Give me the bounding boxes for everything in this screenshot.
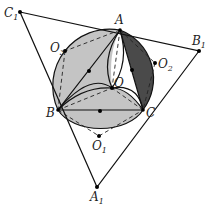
point-a1 bbox=[95, 185, 99, 189]
point-c bbox=[141, 108, 145, 112]
label-c: C bbox=[146, 106, 155, 120]
point-o2 bbox=[153, 61, 157, 65]
point-a bbox=[118, 28, 122, 32]
point-o1 bbox=[97, 134, 101, 138]
midpoint-bc bbox=[98, 109, 102, 113]
label-o1: O1 bbox=[92, 139, 107, 155]
point-b bbox=[56, 108, 60, 112]
label-b1: B1 bbox=[191, 34, 206, 50]
label-a: A bbox=[114, 13, 124, 27]
label-c1: C1 bbox=[4, 6, 18, 22]
label-a1: A1 bbox=[89, 190, 104, 206]
point-c1 bbox=[18, 10, 22, 14]
label-o3: O3 bbox=[50, 41, 65, 57]
label-b: B bbox=[45, 106, 55, 120]
label-o: O bbox=[114, 76, 124, 90]
geometry-diagram: C1 A B1 O3 O2 O B C O1 A1 bbox=[0, 0, 208, 222]
midpoint-ab bbox=[87, 69, 91, 73]
midpoint-ac bbox=[130, 68, 134, 72]
label-o2: O2 bbox=[158, 57, 173, 73]
